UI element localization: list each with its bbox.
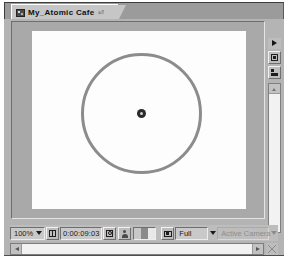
timecode-value: 0:00:09:03	[63, 229, 99, 238]
chevron-down-icon	[271, 231, 277, 235]
current-time-field[interactable]: 0:00:09:03	[60, 227, 102, 240]
tab-modified-marker: ⏎	[98, 9, 104, 17]
composition-viewport[interactable]	[11, 21, 265, 219]
camera-value: Active Camera	[221, 229, 270, 238]
resolution-select[interactable]: Full	[175, 227, 208, 240]
composition-canvas[interactable]	[32, 31, 246, 209]
tab-label: My_Atomic Cafe	[28, 8, 94, 18]
resize-grip-icon[interactable]	[266, 243, 278, 255]
channel-swatch-1[interactable]	[134, 228, 141, 239]
region-of-interest-button[interactable]	[268, 51, 281, 64]
scroll-left-arrow-icon[interactable]	[11, 244, 22, 254]
panel-bottom-edge	[4, 255, 284, 256]
magnification-chevron[interactable]	[33, 231, 44, 235]
viewer-area	[5, 19, 283, 224]
viewer-toolbar: 100% 0:00:09:03 Full Active Camera	[10, 225, 278, 241]
anchor-point[interactable]	[137, 109, 146, 118]
horizontal-scroll-area	[10, 243, 278, 255]
horizontal-scrollbar[interactable]	[10, 243, 264, 255]
three-d-axis-icon	[271, 69, 278, 76]
take-snapshot-button[interactable]	[118, 227, 131, 240]
chevron-down-icon	[210, 231, 216, 235]
magnification-select[interactable]: 100%	[10, 227, 45, 240]
resolution-value: Full	[179, 229, 191, 238]
tab-my-atomic-cafe[interactable]: My_Atomic Cafe ⏎	[11, 4, 118, 20]
camera-select[interactable]: Active Camera	[217, 227, 269, 240]
viewer-side-rail	[267, 37, 282, 235]
view-layout-button[interactable]	[161, 227, 174, 240]
tab-bar: My_Atomic Cafe ⏎	[4, 2, 284, 19]
camera-chevron[interactable]	[269, 231, 278, 235]
grid-and-guides-button[interactable]	[46, 227, 59, 240]
composition-icon	[16, 9, 25, 17]
region-of-interest-icon	[271, 54, 278, 61]
channel-swatch-3[interactable]	[148, 228, 155, 239]
scroll-right-arrow-icon[interactable]	[252, 244, 263, 254]
composition-viewer-panel: My_Atomic Cafe ⏎ 100%	[4, 2, 284, 256]
channel-swatch-2[interactable]	[141, 228, 148, 239]
panel-menu-button[interactable]	[268, 38, 281, 49]
magnification-value: 100%	[14, 229, 33, 238]
resolution-chevron[interactable]	[208, 227, 217, 240]
three-d-view-button[interactable]	[268, 66, 281, 79]
toggle-mask-visibility-button[interactable]	[103, 227, 116, 240]
scroll-up-arrow-icon[interactable]	[269, 84, 280, 94]
chevron-down-icon	[36, 231, 42, 235]
channel-swatches[interactable]	[133, 227, 156, 240]
vertical-scrollbar[interactable]	[268, 83, 281, 233]
